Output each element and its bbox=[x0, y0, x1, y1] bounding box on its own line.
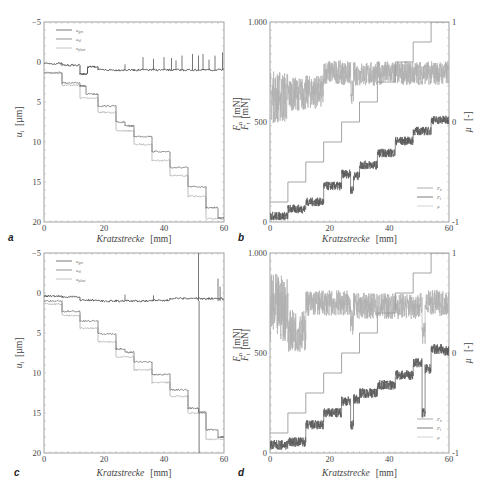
legend-item: Ft bbox=[436, 195, 442, 201]
legend-item: uges bbox=[76, 259, 84, 265]
chart-panel-c: 0204060Kratzstrecke[mm]c−505101520ui[µm]… bbox=[14, 248, 228, 478]
series-u_ges bbox=[44, 295, 224, 302]
y-left-tick-label: 1.000 bbox=[248, 17, 267, 27]
panel-letter: d bbox=[238, 467, 245, 478]
legend: FnFtµ bbox=[417, 417, 442, 440]
y-tick-label: 15 bbox=[33, 408, 42, 418]
x-tick-label: 40 bbox=[160, 223, 169, 233]
x-tick-label: 20 bbox=[325, 223, 334, 233]
legend-item: uplast bbox=[76, 277, 86, 283]
y-right-tick-label: -1 bbox=[452, 448, 459, 458]
legend: ugesueluplast bbox=[56, 259, 86, 283]
panel-letter: b bbox=[238, 232, 244, 243]
y-tick-label: 20 bbox=[33, 217, 42, 227]
y-tick-label: 10 bbox=[33, 368, 42, 378]
legend-item: uges bbox=[76, 28, 84, 34]
y-tick-label: 20 bbox=[33, 448, 42, 458]
plot-frame bbox=[44, 22, 224, 222]
y-right-axis-title: µ[-] bbox=[463, 343, 473, 364]
x-axis-title: Kratzstrecke[mm] bbox=[96, 468, 172, 478]
y-left-tick-label: 1.000 bbox=[248, 248, 267, 258]
y-tick-label: 15 bbox=[33, 177, 42, 187]
legend-item: µ bbox=[437, 435, 440, 440]
y-left-tick-label: 0 bbox=[263, 448, 267, 458]
y-tick-label: −5 bbox=[32, 17, 41, 27]
y-left-tick-label: 0 bbox=[263, 217, 267, 227]
panel-letter: a bbox=[8, 232, 14, 243]
x-tick-label: 0 bbox=[268, 454, 272, 464]
y-right-tick-label: -1 bbox=[452, 217, 459, 227]
legend: ugesueluplast bbox=[56, 28, 86, 52]
series-F_t bbox=[270, 344, 449, 450]
chart-panel-a: 0204060Kratzstrecke[mm]a−505101520ui[µm]… bbox=[8, 17, 228, 244]
y-left-axis-title: Ft[mN] bbox=[240, 329, 251, 362]
legend-item: Ft bbox=[436, 426, 442, 432]
figure: 0204060Kratzstrecke[mm]a−505101520ui[µm]… bbox=[0, 0, 491, 492]
series-u_plast bbox=[44, 304, 224, 441]
y-left-axis-title: Ft[mN] bbox=[240, 98, 251, 131]
legend-item: µ bbox=[437, 204, 440, 209]
x-tick-label: 60 bbox=[220, 454, 229, 464]
series-u_plast bbox=[44, 72, 224, 219]
x-tick-label: 40 bbox=[385, 223, 394, 233]
legend-item: uel bbox=[76, 268, 81, 274]
y-tick-label: −5 bbox=[32, 248, 41, 258]
y-tick-label: 5 bbox=[37, 97, 41, 107]
series-group bbox=[44, 52, 224, 219]
series-F_t bbox=[270, 116, 449, 221]
y-axis-title: ui[µm] bbox=[14, 338, 25, 369]
y-right-tick-label: 0 bbox=[452, 348, 456, 358]
y-right-axis-title: µ[-] bbox=[463, 112, 473, 133]
y-tick-label: 0 bbox=[37, 57, 41, 67]
chart-panel-d: 0204060Kratzstrecke[mm]d05001.000-101Fn[… bbox=[232, 248, 473, 478]
x-tick-label: 60 bbox=[220, 223, 229, 233]
y-tick-label: 5 bbox=[37, 328, 41, 338]
x-tick-label: 40 bbox=[160, 454, 169, 464]
legend-item: uel bbox=[76, 37, 81, 43]
x-axis-title: Kratzstrecke[mm] bbox=[321, 468, 397, 478]
x-tick-label: 20 bbox=[100, 454, 109, 464]
x-axis-title: Kratzstrecke[mm] bbox=[96, 234, 172, 244]
chart-panel-b: 0204060Kratzstrecke[mm]b05001.000-101Fn[… bbox=[232, 17, 473, 244]
series-u_ges bbox=[44, 63, 224, 75]
x-tick-label: 20 bbox=[325, 454, 334, 464]
legend-item: uplast bbox=[76, 46, 86, 52]
x-tick-label: 0 bbox=[42, 454, 46, 464]
x-tick-label: 0 bbox=[268, 223, 272, 233]
y-tick-label: 10 bbox=[33, 137, 42, 147]
y-left-tick-label: 500 bbox=[254, 117, 267, 127]
legend-item: Fn bbox=[436, 417, 442, 423]
x-tick-label: 0 bbox=[42, 223, 46, 233]
y-right-tick-label: 0 bbox=[452, 117, 456, 127]
y-axis-title: ui[µm] bbox=[14, 107, 25, 138]
x-axis-title: Kratzstrecke[mm] bbox=[321, 234, 397, 244]
x-tick-label: 20 bbox=[100, 223, 109, 233]
legend: FnFtµ bbox=[417, 186, 442, 209]
y-right-tick-label: 1 bbox=[452, 17, 456, 27]
panel-letter: c bbox=[14, 467, 20, 478]
y-left-tick-label: 500 bbox=[254, 348, 267, 358]
series-group bbox=[44, 253, 224, 453]
y-tick-label: 0 bbox=[37, 288, 41, 298]
legend-item: Fn bbox=[436, 186, 442, 192]
series-group bbox=[270, 22, 449, 220]
y-right-tick-label: 1 bbox=[452, 248, 456, 258]
series-group bbox=[270, 253, 449, 450]
x-tick-label: 40 bbox=[385, 454, 394, 464]
